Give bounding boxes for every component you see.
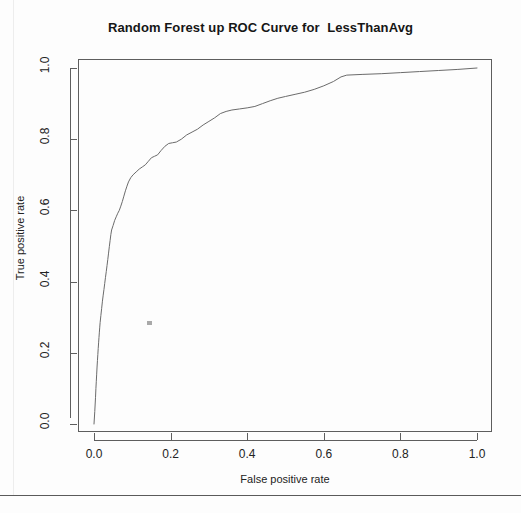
x-tick-mark bbox=[171, 433, 172, 440]
y-tick-mark bbox=[70, 139, 77, 140]
scanned-page: Random Forest up ROC Curve for LessThanA… bbox=[0, 0, 521, 513]
x-tick-mark bbox=[477, 433, 478, 440]
y-tick-mark bbox=[70, 68, 77, 69]
roc-curve-line bbox=[94, 68, 477, 424]
x-tick-label: 0.4 bbox=[225, 447, 269, 461]
x-tick-mark bbox=[94, 433, 95, 440]
y-tick-label: 0.8 bbox=[38, 119, 52, 153]
y-tick-mark bbox=[70, 210, 77, 211]
x-tick-label: 0.8 bbox=[378, 447, 422, 461]
y-tick-label: 0.2 bbox=[38, 333, 52, 367]
x-axis-line bbox=[94, 440, 477, 441]
y-axis-line bbox=[70, 68, 71, 418]
x-tick-mark bbox=[400, 433, 401, 440]
roc-curve-plot bbox=[78, 59, 492, 432]
x-tick-mark bbox=[324, 433, 325, 440]
x-axis-title: False positive rate bbox=[78, 473, 492, 485]
scan-speck-artifact bbox=[147, 321, 152, 325]
y-tick-mark bbox=[70, 424, 77, 425]
y-tick-label: 0.6 bbox=[38, 190, 52, 224]
x-tick-label: 1.0 bbox=[455, 447, 499, 461]
x-tick-label: 0.0 bbox=[72, 447, 116, 461]
y-tick-mark bbox=[70, 282, 77, 283]
y-tick-label: 0.0 bbox=[38, 404, 52, 438]
x-tick-label: 0.6 bbox=[302, 447, 346, 461]
y-tick-label: 1.0 bbox=[38, 48, 52, 82]
x-tick-mark bbox=[247, 433, 248, 440]
x-tick-label: 0.2 bbox=[149, 447, 193, 461]
page-separator-rule bbox=[0, 495, 521, 496]
y-tick-mark bbox=[70, 353, 77, 354]
chart-title: Random Forest up ROC Curve for LessThanA… bbox=[0, 20, 521, 35]
y-tick-label: 0.4 bbox=[38, 262, 52, 296]
y-axis-title: True positive rate bbox=[14, 178, 26, 298]
